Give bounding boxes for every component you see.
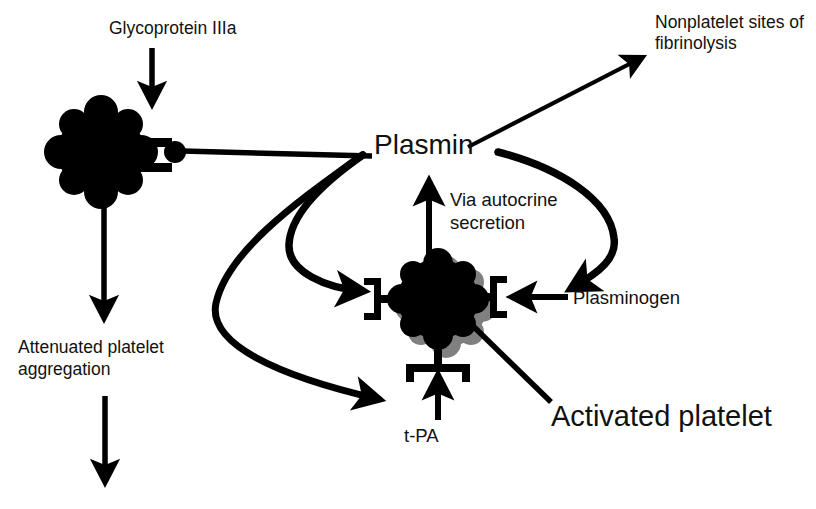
- plasmin-to-tpa-receptor-curve: [215, 155, 378, 399]
- label-attenuated-line1: Attenuated platelet: [18, 337, 164, 358]
- label-glycoprotein-iiia: Glycoprotein IIIa: [109, 18, 236, 39]
- bound-plasmin-ball-icon: [164, 141, 186, 163]
- plasmin-to-left-receptor-curve: [289, 155, 363, 291]
- label-via-autocrine-line2: secretion: [450, 212, 525, 234]
- label-plasmin: Plasmin: [374, 128, 474, 161]
- resting-platelet-glyph: [44, 95, 172, 209]
- label-nonplatelet-sites-line2: fibrinolysis: [655, 33, 737, 54]
- activated-platelet-glyph: [364, 248, 507, 382]
- activated-platelet-leader-line: [472, 325, 551, 402]
- label-tpa: t-PA: [404, 425, 439, 447]
- pathway-diagram: Glycoprotein IIIa Nonplatelet sites of f…: [0, 0, 816, 509]
- plasmin-to-nonplatelet-arrow: [468, 57, 643, 147]
- label-attenuated-line2: aggregation: [18, 359, 110, 380]
- label-plasminogen: Plasminogen: [573, 287, 680, 309]
- label-activated-platelet: Activated platelet: [551, 399, 772, 433]
- label-nonplatelet-sites-line1: Nonplatelet sites of: [655, 12, 804, 33]
- receptor-to-plasmin-line: [183, 151, 372, 156]
- label-via-autocrine-line1: Via autocrine: [450, 189, 558, 211]
